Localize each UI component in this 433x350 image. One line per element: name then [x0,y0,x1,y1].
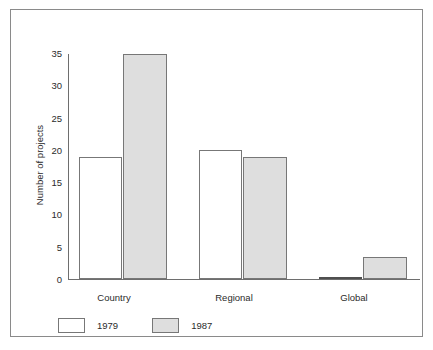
x-axis-line [68,279,420,280]
legend-entry-1979[interactable]: 1979 [58,318,118,333]
bar-country-1987[interactable] [123,54,167,279]
bar-global-1979[interactable] [319,277,362,279]
legend-label-1987: 1987 [191,320,212,331]
y-tick-label-5: 5 [57,243,62,253]
legend-entry-1987[interactable]: 1987 [152,318,212,333]
chart-legend: 1979 1987 [58,318,212,333]
chart-figure-frame: Number of projects 0 5 10 15 20 25 30 35… [10,9,423,337]
bar-global-1987[interactable] [363,257,407,280]
legend-label-1979: 1979 [97,320,118,331]
bar-country-1979[interactable] [79,157,122,279]
bar-regional-1987[interactable] [243,157,287,279]
plot-area: 0 5 10 15 20 25 30 35 [68,54,420,280]
x-tick-label-country: Country [97,292,130,303]
y-tick-label-0: 0 [57,275,62,285]
y-tick-label-35: 35 [51,49,62,59]
y-axis-line [68,54,69,280]
y-tick-label-30: 30 [51,82,62,92]
legend-swatch-1987 [152,318,179,333]
x-tick-label-global: Global [340,292,367,303]
y-tick-label-20: 20 [51,146,62,156]
y-axis-label: Number of projects [34,125,45,205]
bar-regional-1979[interactable] [199,150,242,279]
x-tick-label-regional: Regional [215,292,253,303]
legend-swatch-1979 [58,318,85,333]
y-tick-label-10: 10 [51,211,62,221]
y-tick-label-15: 15 [51,178,62,188]
y-tick-label-25: 25 [51,114,62,124]
